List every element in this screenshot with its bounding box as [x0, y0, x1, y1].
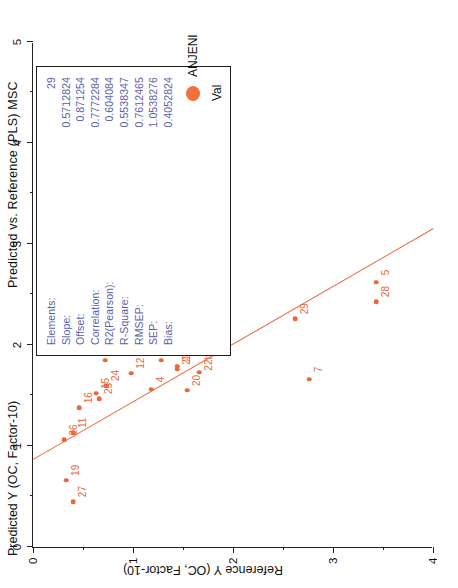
data-point[interactable] — [374, 299, 379, 304]
axis-tick-label: 3 — [11, 241, 23, 247]
axis-tick-label: 3 — [327, 558, 339, 564]
data-point-label: 5 — [380, 270, 391, 276]
data-point[interactable] — [197, 370, 202, 375]
legend: ANJENI — [186, 34, 200, 101]
stat-row: SEP: 1.0538276 — [146, 77, 161, 345]
stat-key: Correlation: — [88, 290, 103, 345]
axis-tick-minor — [183, 547, 184, 551]
data-point-label: 20 — [191, 375, 202, 386]
axis-tick — [233, 547, 234, 553]
stat-row: Offset: 0.871254 — [73, 77, 88, 345]
data-point[interactable] — [185, 388, 190, 393]
legend-marker-icon — [186, 86, 200, 101]
axis-tick — [333, 547, 334, 553]
data-point[interactable] — [307, 377, 312, 382]
data-point[interactable] — [103, 358, 108, 363]
stat-key: RMSEP: — [132, 304, 147, 345]
stat-value: 0.4052824 — [161, 77, 176, 128]
data-point[interactable] — [149, 387, 154, 392]
stat-value: 0.7772284 — [88, 77, 103, 128]
data-point-label: 27 — [77, 486, 88, 497]
chart-title: Predicted vs. Reference (PLS) MSC — [6, 81, 20, 288]
data-point[interactable] — [64, 478, 69, 483]
axis-tick — [27, 41, 33, 42]
data-point-label: 28 — [380, 286, 391, 297]
stat-key: SEP: — [146, 321, 161, 345]
data-point-label: 16 — [83, 392, 94, 403]
stat-key: Elements: — [44, 297, 59, 345]
stat-value: 0.871254 — [73, 77, 88, 122]
axis-tick — [433, 547, 434, 553]
data-point[interactable] — [62, 438, 67, 443]
data-point[interactable] — [97, 396, 102, 401]
data-point-label: 7 — [313, 367, 324, 373]
data-point-label: 24 — [110, 370, 121, 381]
data-point[interactable] — [94, 391, 99, 396]
stat-value: 29 — [44, 77, 59, 89]
data-point-label: 22b — [203, 354, 214, 371]
data-point[interactable] — [293, 316, 298, 321]
data-point[interactable] — [77, 405, 82, 410]
axis-tick — [133, 547, 134, 553]
legend-series-label: ANJENI — [186, 34, 200, 77]
data-point-label: 29 — [299, 303, 310, 314]
stat-key: Slope: — [59, 315, 74, 345]
axis-tick-minor — [30, 293, 34, 294]
stat-row: Correlation: 0.7772284 — [88, 77, 103, 345]
top-axis-label: Predicted Y (OC, Factor-10) — [6, 401, 20, 556]
stat-key: Bias: — [161, 321, 176, 345]
stat-value: 0.5538347 — [117, 77, 132, 128]
data-point[interactable] — [71, 499, 76, 504]
axis-tick-label: 0 — [11, 544, 23, 550]
axis-tick-label: 1 — [11, 443, 23, 449]
scatter-plot-figure: Predicted vs. Reference (PLS) MSC Predic… — [0, 0, 458, 588]
axis-tick — [27, 344, 33, 345]
data-point-label: 19 — [70, 465, 81, 476]
axis-tick-minor — [30, 495, 34, 496]
axis-tick — [27, 142, 33, 143]
chart-canvas: Predicted vs. Reference (PLS) MSC Predic… — [0, 0, 458, 588]
axis-tick-label: 4 — [11, 140, 23, 146]
data-point-label: 12 — [135, 358, 146, 369]
stat-key: Offset: — [73, 314, 88, 345]
stat-row: Slope: 0.5712824 — [59, 77, 74, 345]
stat-key: R-Square: — [117, 296, 132, 345]
axis-tick-minor — [30, 91, 34, 92]
stat-row: Elements: 29 — [44, 77, 59, 345]
axis-tick-minor — [383, 547, 384, 551]
data-point[interactable] — [129, 371, 134, 376]
axis-tick-label: 2 — [227, 558, 239, 564]
axis-tick-label: 5 — [11, 39, 23, 45]
data-point-label: 4 — [155, 377, 166, 383]
data-point[interactable] — [374, 280, 379, 285]
axis-tick-label: 1 — [127, 558, 139, 564]
stat-row: R2(Pearson): 0.604084 — [102, 77, 117, 345]
stat-value: 0.5712824 — [59, 77, 74, 128]
data-point[interactable] — [159, 358, 164, 363]
data-point[interactable] — [71, 431, 76, 436]
axis-tick — [33, 547, 34, 553]
data-point-label: 11 — [77, 418, 88, 428]
stat-value: 1.0538276 — [146, 77, 161, 128]
statistics-box: Elements: 29 Slope: 0.5712824 Offset: 0.… — [36, 66, 231, 356]
axis-tick-minor — [283, 547, 284, 551]
axis-tick-minor — [30, 394, 34, 395]
stat-key: R2(Pearson): — [102, 281, 117, 345]
axis-tick — [27, 243, 33, 244]
data-point[interactable] — [175, 367, 180, 372]
axis-tick-label: 0 — [27, 558, 39, 564]
axis-tick-label: 4 — [427, 558, 439, 564]
stat-value: 0.604084 — [102, 77, 117, 122]
legend-sub-label: Val — [210, 85, 224, 101]
stat-row: R-Square: 0.5538347 — [117, 77, 132, 345]
axis-tick-minor — [30, 192, 34, 193]
stat-value: 0.7612465 — [132, 77, 147, 128]
stat-row: Bias: 0.4052824 — [161, 77, 176, 345]
axis-tick — [27, 445, 33, 446]
stat-row: RMSEP: 0.7612465 — [132, 77, 147, 345]
left-axis-label: Reference Y (OC, Factor-10) — [123, 563, 283, 577]
data-point[interactable] — [104, 383, 109, 388]
axis-tick-label: 2 — [11, 342, 23, 348]
axis-tick-minor — [83, 547, 84, 551]
